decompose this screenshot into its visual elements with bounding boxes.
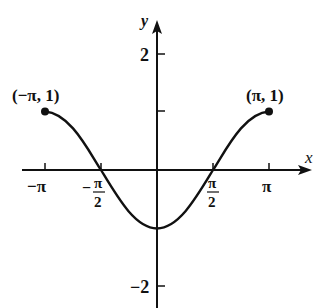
endpoint-right-dot [265,108,273,116]
svg-text:2: 2 [208,194,216,210]
endpoint-left-dot [41,108,49,116]
point-label-left: (−π, 1) [12,86,59,105]
x-axis-label: x [304,148,313,167]
x-tick-label-neg-pi: −π [27,177,47,196]
y-tick-label-neg2: −2 [130,277,149,297]
x-tick-label-pi: π [262,177,272,196]
y-tick-label-2: 2 [140,45,149,65]
svg-text:π: π [94,175,103,191]
svg-text:−: − [82,179,91,196]
y-axis-label: y [139,12,149,30]
x-tick-label-half-pi: π 2 [207,175,219,210]
y-axis [152,20,162,308]
function-graph: x y 2 −2 −π π − π 2 π 2 (−π, 1) (π, 1) [0,0,321,308]
svg-text:π: π [208,175,217,191]
point-label-right: (π, 1) [246,86,284,105]
x-tick-label-neg-half-pi: − π 2 [82,175,105,210]
svg-text:2: 2 [94,194,102,210]
